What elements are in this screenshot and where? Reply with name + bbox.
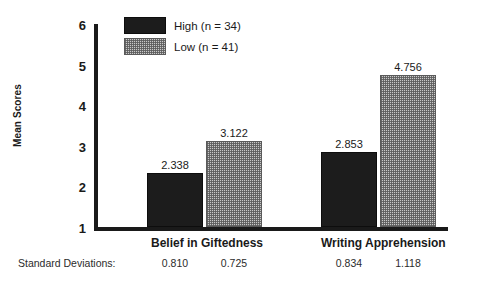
std-dev-caption: Standard Deviations: bbox=[18, 257, 115, 269]
bar-writing-low[interactable]: 4.756 bbox=[380, 75, 436, 228]
bar-belief-low[interactable]: 3.122 bbox=[206, 141, 262, 227]
y-tick-5: 5 bbox=[52, 60, 86, 73]
bar-value-writing-high: 2.853 bbox=[335, 138, 363, 150]
std-dev-belief-low: 0.725 bbox=[206, 257, 262, 269]
category-label-belief-in-giftedness: Belief in Giftedness bbox=[147, 236, 267, 250]
std-dev-writing-low: 1.118 bbox=[380, 257, 436, 269]
y-axis-line bbox=[94, 24, 98, 231]
y-axis-title: Mean Scores bbox=[12, 76, 23, 156]
std-dev-belief-high: 0.810 bbox=[147, 257, 203, 269]
y-tick-1: 1 bbox=[52, 222, 86, 235]
std-dev-writing-high: 0.834 bbox=[321, 257, 377, 269]
bar-writing-high[interactable]: 2.853 bbox=[321, 152, 377, 227]
bar-value-belief-high: 2.338 bbox=[161, 159, 189, 171]
y-tick-3: 3 bbox=[52, 141, 86, 154]
category-label-writing-apprehension: Writing Apprehension bbox=[321, 236, 441, 250]
plot-area: 6 5 4 3 2 1 2.338 3.122 2.853 4.756 bbox=[94, 24, 448, 231]
y-tick-2: 2 bbox=[52, 181, 86, 194]
bar-chart: Mean Scores High (n = 34) Low (n = 41) 6… bbox=[0, 0, 480, 285]
bar-value-writing-low: 4.756 bbox=[394, 61, 422, 73]
bar-belief-high[interactable]: 2.338 bbox=[147, 173, 203, 227]
bar-value-belief-low: 3.122 bbox=[220, 127, 248, 139]
y-tick-6: 6 bbox=[52, 19, 86, 32]
y-tick-4: 4 bbox=[52, 100, 86, 113]
x-axis-line bbox=[94, 227, 448, 231]
